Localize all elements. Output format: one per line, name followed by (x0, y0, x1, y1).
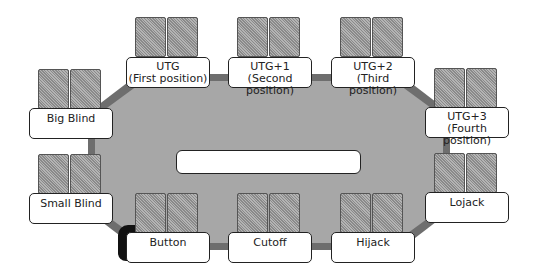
card-back-icon (135, 193, 166, 233)
seat-label: Big Blind (29, 108, 113, 139)
seat-subtitle: (Second position) (229, 73, 311, 97)
card-back-icon (372, 193, 403, 233)
hole-cards (135, 193, 199, 233)
card-back-icon (167, 193, 198, 233)
card-back-icon (167, 17, 198, 57)
seat-label: UTG+3 (Fourth position) (425, 107, 509, 138)
seat-name: Big Blind (30, 113, 112, 125)
card-back-icon (434, 68, 465, 108)
seat-name: Button (127, 237, 209, 249)
hole-cards (135, 17, 199, 57)
card-back-icon (340, 17, 371, 57)
seat-label: Cutoff (228, 232, 312, 263)
seat-subtitle: (First position) (127, 73, 209, 85)
card-back-icon (38, 69, 69, 109)
seat-name: Small Blind (30, 198, 112, 210)
card-back-icon (70, 69, 101, 109)
seat-label: Hijack (331, 232, 415, 263)
card-back-icon (434, 153, 465, 193)
hole-cards (38, 69, 102, 109)
card-back-icon (237, 193, 268, 233)
card-back-icon (340, 193, 371, 233)
seat-label: UTG+2 (Third position) (331, 57, 415, 88)
seat-label: Button (126, 232, 210, 263)
card-back-icon (466, 153, 497, 193)
hole-cards (340, 193, 404, 233)
seat-name: Hijack (332, 237, 414, 249)
seat-name: Cutoff (229, 237, 311, 249)
seat-label: Lojack (425, 192, 509, 223)
card-back-icon (237, 17, 268, 57)
seat-label: UTG (First position) (126, 57, 210, 88)
hole-cards (340, 17, 404, 57)
seat-subtitle: (Fourth position) (426, 123, 508, 147)
card-back-icon (269, 193, 300, 233)
community-card-area (176, 150, 361, 174)
card-back-icon (466, 68, 497, 108)
card-back-icon (372, 17, 403, 57)
seat-subtitle: (Third position) (332, 73, 414, 97)
hole-cards (38, 154, 102, 194)
seat-name: Lojack (426, 197, 508, 209)
seat-label: UTG+1 (Second position) (228, 57, 312, 88)
seat-label: Small Blind (29, 193, 113, 224)
hole-cards (434, 153, 498, 193)
card-back-icon (135, 17, 166, 57)
hole-cards (434, 68, 498, 108)
hole-cards (237, 17, 301, 57)
card-back-icon (70, 154, 101, 194)
card-back-icon (269, 17, 300, 57)
card-back-icon (38, 154, 69, 194)
hole-cards (237, 193, 301, 233)
